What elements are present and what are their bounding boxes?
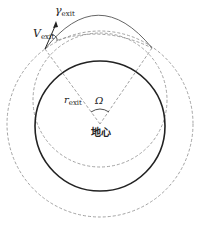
omega-angle-arc (91, 109, 109, 112)
trajectory-arc (45, 15, 152, 49)
radius-line-right (100, 48, 152, 124)
orbit-diagram: γexit Vexit rexit Ω 地心 (0, 0, 199, 228)
earth-center-label: 地心 (91, 126, 111, 138)
arrowhead-icon (53, 21, 58, 28)
velocity-label: Vexit (33, 27, 54, 41)
radius-line-left (45, 49, 100, 124)
gamma-label: γexit (55, 4, 75, 18)
horizontal-reference-arc (58, 34, 152, 48)
omega-label: Ω (94, 95, 103, 106)
radius-label: rexit (64, 94, 82, 107)
earth-circle (35, 61, 165, 191)
